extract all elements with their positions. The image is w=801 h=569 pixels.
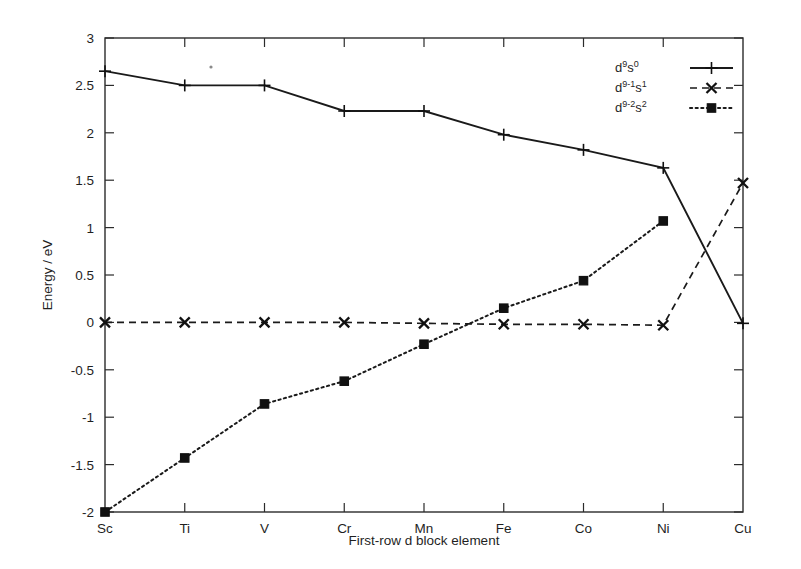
series-path-2 bbox=[105, 221, 663, 512]
right-axis-ticks bbox=[734, 38, 743, 512]
x-tick-label-ni: Ni bbox=[657, 521, 670, 536]
scan-speck bbox=[209, 65, 212, 68]
data-series-layer bbox=[105, 71, 743, 512]
x-tick-label-v: V bbox=[260, 521, 269, 536]
x-tick-label-sc: Sc bbox=[97, 521, 113, 536]
y-tick-label: 2 bbox=[86, 126, 94, 141]
y-axis-title: Energy / eV bbox=[40, 240, 55, 311]
y-tick-label: 3 bbox=[86, 31, 94, 46]
y-tick-label: 2.5 bbox=[75, 78, 94, 93]
y-tick-label: -0.5 bbox=[71, 363, 94, 378]
series-path-1 bbox=[105, 183, 743, 325]
y-axis-ticks bbox=[105, 38, 114, 512]
y-tick-label: -2 bbox=[82, 505, 94, 520]
legend-label-0: d9s0 bbox=[615, 59, 639, 75]
y-tick-label: 1.5 bbox=[75, 173, 94, 188]
x-tick-label-co: Co bbox=[575, 521, 592, 536]
y-tick-label: -1 bbox=[82, 410, 94, 425]
y-tick-label: 1 bbox=[86, 221, 94, 236]
x-axis-title: First-row d block element bbox=[349, 533, 500, 548]
y-tick-label: 0 bbox=[86, 315, 94, 330]
legend-label-1: d9-1s1 bbox=[615, 79, 647, 95]
data-marker-layer bbox=[99, 65, 749, 516]
top-axis-ticks bbox=[185, 38, 664, 47]
legend-label-2: d9-2s2 bbox=[615, 99, 647, 115]
x-axis-ticks bbox=[185, 503, 664, 512]
chart-legend: d9s0d9-1s1d9-2s2 bbox=[615, 59, 733, 115]
chart-svg: -2-1.5-1-0.500.511.522.53 ScTiVCrMnFeCoN… bbox=[0, 0, 801, 569]
x-tick-label-ti: Ti bbox=[179, 521, 190, 536]
y-tick-label: 0.5 bbox=[75, 268, 94, 283]
y-axis-tick-labels: -2-1.5-1-0.500.511.522.53 bbox=[71, 31, 94, 520]
y-tick-label: -1.5 bbox=[71, 458, 94, 473]
chart-figure: -2-1.5-1-0.500.511.522.53 ScTiVCrMnFeCoN… bbox=[0, 0, 801, 569]
x-tick-label-cu: Cu bbox=[734, 521, 751, 536]
